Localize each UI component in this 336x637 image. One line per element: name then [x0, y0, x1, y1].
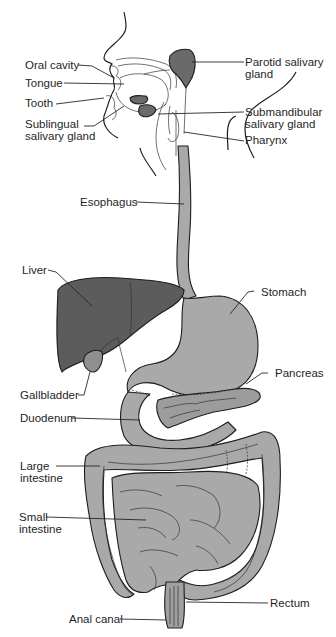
- parotid-gland: [169, 49, 195, 88]
- label-pancreas: Pancreas: [275, 367, 324, 379]
- label-rectum: Rectum: [270, 597, 310, 609]
- submandibular-gland: [139, 105, 156, 117]
- label-large-intestine: Large intestine: [20, 460, 63, 484]
- label-anal-canal: Anal canal: [69, 613, 123, 625]
- label-sublingual-gland: Sublingual salivary gland: [25, 118, 95, 142]
- head-profile: [104, 12, 296, 176]
- label-tooth: Tooth: [25, 97, 53, 109]
- rectum: [165, 582, 185, 628]
- label-parotid-gland: Parotid salivary gland: [245, 56, 324, 80]
- digestive-system-diagram: [0, 0, 336, 637]
- label-submandibular-gland: Submandibular salivary gland: [245, 106, 322, 130]
- label-tongue: Tongue: [25, 77, 63, 89]
- label-duodenum: Duodenum: [20, 412, 76, 424]
- label-liver: Liver: [22, 264, 47, 276]
- gallbladder: [84, 350, 103, 372]
- label-esophagus: Esophagus: [80, 196, 138, 208]
- label-pharynx: Pharynx: [245, 134, 287, 146]
- label-gallbladder: Gallbladder: [20, 389, 79, 401]
- label-small-intestine: Small intestine: [19, 511, 62, 535]
- salivary-glands: [130, 49, 195, 134]
- label-oral-cavity: Oral cavity: [25, 59, 79, 71]
- label-stomach: Stomach: [261, 286, 306, 298]
- sublingual-gland: [130, 96, 148, 105]
- liver: [57, 278, 184, 373]
- esophagus: [177, 146, 196, 300]
